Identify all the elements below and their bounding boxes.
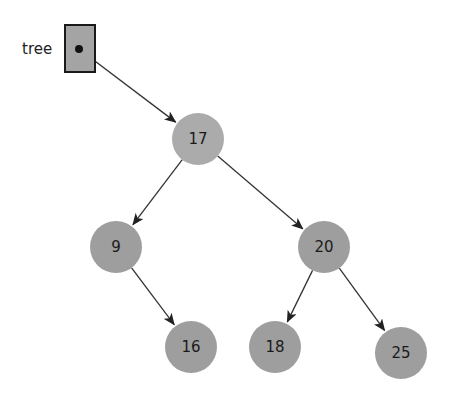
tree-pointer: tree [22,25,95,72]
node-label: 25 [391,344,410,362]
edge-17-to-9 [133,160,182,225]
node-label: 16 [181,338,200,356]
pointer-dot [75,45,83,53]
node-label: 9 [111,238,121,256]
edge-17-to-20 [218,156,303,229]
tree-node-18: 18 [249,321,301,373]
tree-node-25: 25 [375,327,427,379]
tree-node-20: 20 [298,221,350,273]
tree-node-17: 17 [172,113,224,165]
edge-20-to-18 [287,270,312,322]
nodes: 17920161825 [90,113,427,379]
edge-9-to-16 [132,268,175,325]
tree-node-16: 16 [165,321,217,373]
node-label: 18 [265,338,284,356]
node-label: 17 [188,130,207,148]
pointer-label: tree [22,40,52,58]
tree-node-9: 9 [90,221,142,273]
node-label: 20 [314,238,333,256]
edges [79,49,385,330]
binary-tree-diagram: tree 17920161825 [0,0,454,398]
edge-20-to-25 [339,268,384,330]
